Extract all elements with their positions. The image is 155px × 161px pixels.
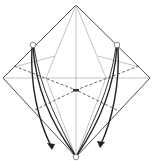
left-reference-circle <box>30 42 36 48</box>
right-arrowhead <box>97 141 105 148</box>
diamond-outline <box>3 5 150 157</box>
left-arrowhead <box>47 143 55 150</box>
right-reference-circle <box>114 42 120 48</box>
bottom-target-circle <box>73 154 79 160</box>
center-mark <box>73 89 79 92</box>
origami-fold-diagram <box>0 0 155 161</box>
crease-lines <box>3 5 150 157</box>
